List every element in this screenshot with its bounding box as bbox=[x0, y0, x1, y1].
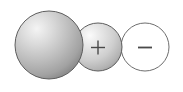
diagram-svg: + − bbox=[0, 0, 183, 92]
large-neutral-sphere bbox=[15, 11, 83, 79]
charged-particles-diagram: + − bbox=[0, 0, 183, 92]
